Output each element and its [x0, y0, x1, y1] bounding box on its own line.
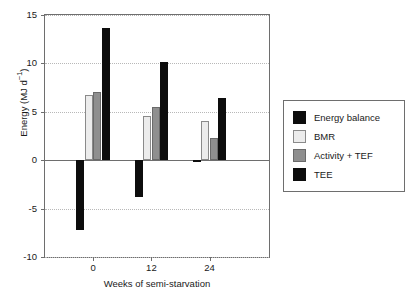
black-swatch-icon — [293, 168, 306, 181]
y-tick-mark — [41, 257, 45, 258]
legend-item-label: BMR — [314, 131, 335, 142]
bar-energy-balance-week-24 — [193, 160, 201, 162]
y-tick-label: -5 — [0, 204, 37, 214]
y-axis-label-text: Energy (MJ d — [18, 80, 29, 137]
y-tick-mark — [41, 160, 45, 161]
plot-area: 151050-5-1001224 — [44, 14, 270, 258]
legend-item: BMR — [293, 127, 396, 146]
y-tick-mark — [41, 63, 45, 64]
bar-tee-week-24 — [218, 98, 226, 160]
legend-item-label: Energy balance — [314, 112, 380, 123]
legend-item-label: TEE — [314, 169, 332, 180]
y-gridline — [45, 63, 269, 64]
bar-activity-tef-week-24 — [210, 138, 218, 160]
y-tick-mark — [41, 15, 45, 16]
x-tick-mark — [151, 257, 152, 261]
y-axis-label-exponent: −1 — [15, 72, 24, 81]
bar-bmr-week-12 — [143, 116, 151, 161]
y-tick-label: 15 — [0, 10, 37, 20]
bar-energy-balance-week-12 — [135, 160, 143, 197]
x-tick-mark — [210, 257, 211, 261]
x-tick-label: 12 — [131, 263, 171, 273]
x-tick-label: 24 — [190, 263, 230, 273]
x-tick-label: 0 — [73, 263, 113, 273]
bar-bmr-week-0 — [85, 95, 93, 160]
x-tick-mark — [93, 257, 94, 261]
legend-box: Energy balance BMR Activity + TEF TEE — [283, 100, 405, 192]
y-gridline — [45, 15, 269, 16]
bar-activity-tef-week-12 — [152, 107, 160, 160]
legend-item: TEE — [293, 165, 396, 184]
y-axis-label-tail: ) — [18, 68, 29, 71]
legend-item: Energy balance — [293, 108, 396, 127]
legend-item: Activity + TEF — [293, 146, 396, 165]
y-axis-label: Energy (MJ d−1) — [15, 33, 28, 173]
black-swatch-icon — [293, 111, 306, 124]
bar-tee-week-12 — [160, 62, 168, 160]
bar-activity-tef-week-0 — [93, 92, 101, 160]
y-tick-mark — [41, 112, 45, 113]
bar-bmr-week-24 — [201, 121, 209, 161]
y-tick-mark — [41, 209, 45, 210]
legend-item-label: Activity + TEF — [314, 150, 373, 161]
figure-canvas: 151050-5-1001224 Energy (MJ d−1) Weeks o… — [0, 0, 413, 296]
bar-tee-week-0 — [102, 28, 110, 161]
light-gray-swatch-icon — [293, 130, 306, 143]
x-axis-label: Weeks of semi-starvation — [44, 278, 270, 289]
y-tick-label: -10 — [0, 252, 37, 262]
bar-energy-balance-week-0 — [76, 160, 84, 230]
y-gridline — [45, 257, 269, 258]
mid-gray-swatch-icon — [293, 149, 306, 162]
